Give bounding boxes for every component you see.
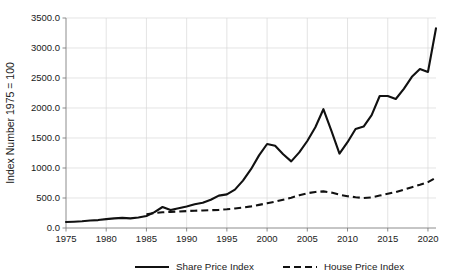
x-axis-tick-labels: 1975198019851990199520002005201020152020 <box>55 233 438 244</box>
axes <box>63 18 437 232</box>
legend-label: Share Price Index <box>176 261 254 272</box>
y-axis-tick-label: 1000.0 <box>31 162 60 173</box>
series-line-share-price-index <box>66 28 436 222</box>
chart-container: 0.0500.01000.01500.02000.02500.03000.035… <box>0 0 453 280</box>
chart-legend: Share Price IndexHouse Price Index <box>135 261 404 272</box>
series-line-house-price-index <box>146 178 436 215</box>
y-axis-tick-label: 3500.0 <box>31 12 60 23</box>
gridlines <box>66 18 436 228</box>
x-axis-tick-label: 1985 <box>136 233 157 244</box>
x-axis-tick-label: 2010 <box>337 233 358 244</box>
data-series <box>66 28 436 222</box>
x-axis-tick-label: 2020 <box>417 233 438 244</box>
x-axis-tick-label: 1990 <box>176 233 197 244</box>
y-axis-tick-label: 500.0 <box>36 192 60 203</box>
y-axis-tick-label: 0.0 <box>47 222 60 233</box>
x-axis-tick-label: 1980 <box>96 233 117 244</box>
y-axis-tick-label: 2000.0 <box>31 102 60 113</box>
y-axis-tick-labels: 0.0500.01000.01500.02000.02500.03000.035… <box>31 12 60 233</box>
x-axis-tick-label: 2015 <box>377 233 398 244</box>
legend-label: House Price Index <box>324 261 404 272</box>
y-axis-title: Index Number 1975 = 100 <box>4 62 16 184</box>
line-chart: 0.0500.01000.01500.02000.02500.03000.035… <box>0 0 453 280</box>
y-axis-tick-label: 2500.0 <box>31 72 60 83</box>
x-axis-tick-label: 1975 <box>55 233 76 244</box>
x-axis-tick-label: 1995 <box>216 233 237 244</box>
x-axis-tick-label: 2000 <box>257 233 278 244</box>
y-axis-tick-label: 1500.0 <box>31 132 60 143</box>
y-axis-tick-label: 3000.0 <box>31 42 60 53</box>
x-axis-tick-label: 2005 <box>297 233 318 244</box>
